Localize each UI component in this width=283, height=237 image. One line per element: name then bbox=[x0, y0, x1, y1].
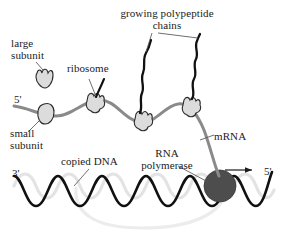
label-mrna: mRNA bbox=[214, 131, 262, 143]
dna-five-prime-marker: 5' bbox=[264, 166, 271, 177]
transcription-translation-figure: growing polypeptide chains large subunit… bbox=[0, 0, 283, 237]
small-subunit-free bbox=[38, 103, 54, 124]
leader-ribosome bbox=[89, 79, 95, 94]
label-growing-polypeptide-chains: growing polypeptide chains bbox=[108, 8, 226, 31]
diagram-canvas bbox=[0, 0, 283, 237]
label-rna-polymerase: RNA polymerase bbox=[131, 148, 203, 171]
label-copied-dna: copied DNA bbox=[61, 156, 137, 168]
mrna-five-prime-marker: 5' bbox=[14, 94, 21, 105]
ribosome-2 bbox=[134, 111, 153, 130]
ribosome-3 bbox=[182, 97, 201, 116]
dna-three-prime-marker: 3' bbox=[12, 168, 19, 179]
transcription-direction-arrow bbox=[225, 167, 252, 173]
polypeptide-chain-left bbox=[140, 40, 151, 113]
label-small-subunit: small subunit bbox=[10, 128, 72, 151]
leader-growing-to-right-chain bbox=[158, 33, 198, 38]
large-subunit-free bbox=[36, 69, 53, 88]
label-ribosome: ribosome bbox=[67, 63, 129, 75]
leader-large-subunit bbox=[36, 62, 43, 70]
ribosome-1 bbox=[86, 79, 105, 113]
polypeptide-chain-right bbox=[192, 34, 200, 99]
label-large-subunit: large subunit bbox=[11, 38, 75, 61]
